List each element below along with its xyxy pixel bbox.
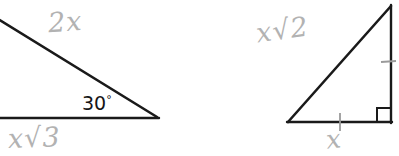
tick-mark-vertical-leg-icon: [381, 61, 396, 62]
left-triangle-hypotenuse-label: 2x: [47, 5, 83, 38]
figure-canvas: 2x x√3 x√2 x 30°: [0, 0, 399, 156]
angle-value: 30: [82, 92, 106, 114]
right-angle-marker-icon: [377, 108, 390, 121]
right-triangle-base-label: x: [324, 123, 342, 154]
degree-symbol-icon: °: [106, 93, 112, 106]
angle-label-30-degrees: 30°: [82, 92, 112, 114]
left-triangle-base-label: x√3: [7, 121, 61, 154]
